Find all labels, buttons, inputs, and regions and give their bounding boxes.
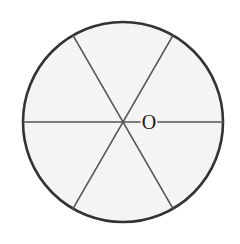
- geometry-figure: O: [0, 0, 240, 244]
- center-point-label: O: [142, 111, 156, 133]
- circle-diagram-canvas: O: [0, 0, 240, 244]
